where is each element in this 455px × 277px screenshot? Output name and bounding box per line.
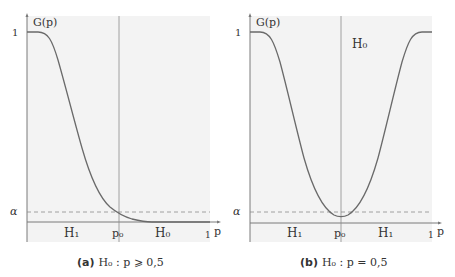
caption-b: (b)H₀ : p = 0,5 [300, 256, 387, 269]
xtick-p0-a: p₀ [112, 227, 124, 240]
region-h1-left-b: H₁ [287, 226, 302, 240]
ylabel-a: G(p) [33, 16, 57, 29]
ylabel-b: G(p) [256, 16, 280, 29]
xtick-one-b: 1 [428, 230, 434, 240]
xtick-one-a: 1 [205, 230, 211, 240]
panel-a: G(p) 1 α H₁ p₀ H₀ 1 p [10, 13, 221, 242]
panel-b: G(p) 1 α H₀ H₁ p₀ H₁ 1 p [233, 13, 444, 242]
x-axis-arrow-icon [217, 221, 221, 224]
region-h0-b: H₀ [352, 37, 367, 51]
xtick-p0-b: p₀ [334, 227, 346, 240]
ytick-alpha-b: α [233, 205, 241, 218]
caption-text-b: H₀ : p = 0,5 [322, 256, 387, 269]
ytick-one-b: 1 [235, 27, 241, 38]
y-axis-arrow-icon [26, 13, 29, 17]
caption-tag-b: (b) [300, 256, 318, 269]
xlabel-b: p [437, 225, 444, 238]
figure: G(p) 1 α H₁ p₀ H₀ 1 p G(p) 1 α H₀ H₁ p₀ … [0, 0, 455, 277]
xlabel-a: p [214, 225, 221, 238]
caption-tag-a: (a) [77, 256, 94, 269]
caption-text-a: H₀ : p ⩾ 0,5 [98, 256, 163, 269]
caption-a: (a)H₀ : p ⩾ 0,5 [77, 256, 164, 269]
region-h1-right-b: H₁ [378, 226, 393, 240]
ytick-one-a: 1 [12, 27, 18, 38]
y-axis-arrow-icon [249, 13, 252, 17]
region-h1-a: H₁ [64, 226, 79, 240]
region-h0-a: H₀ [155, 226, 170, 240]
ytick-alpha-a: α [10, 205, 18, 218]
